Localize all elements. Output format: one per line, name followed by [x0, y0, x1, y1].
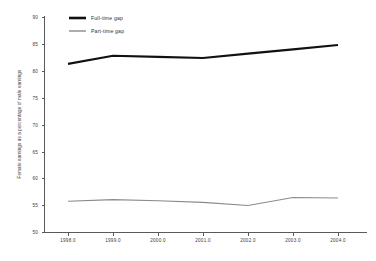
y-tick-label: 65	[32, 150, 38, 155]
y-tick-label: 80	[32, 69, 38, 74]
x-tick-label: 2000.0	[150, 238, 166, 243]
x-tick-label: 2001.0	[195, 238, 211, 243]
line-chart-canvas: 90 85 80 75 70 65 60 55 50 Female earnin…	[0, 0, 376, 261]
chart-background	[0, 0, 376, 261]
x-tick-label: 1999.0	[105, 238, 121, 243]
y-tick-label: 70	[32, 123, 38, 128]
y-axis-title: Female earnings as a percentage of male …	[17, 69, 22, 178]
x-tick-label: 2004.0	[330, 238, 346, 243]
legend-label-part-time: Part-time gap	[91, 28, 124, 34]
x-tick-label: 1998.0	[60, 238, 76, 243]
legend-label-full-time: Full-time gap	[91, 15, 123, 21]
chart-figure: 90 85 80 75 70 65 60 55 50 Female earnin…	[0, 0, 376, 261]
y-tick-label: 85	[32, 42, 38, 47]
y-tick-label: 50	[32, 230, 38, 235]
x-tick-label: 2002.0	[240, 238, 256, 243]
x-tick-label: 2003.0	[285, 238, 301, 243]
y-tick-label: 90	[32, 15, 38, 20]
y-tick-label: 55	[32, 203, 38, 208]
y-tick-label: 60	[32, 176, 38, 181]
y-tick-label: 75	[32, 96, 38, 101]
